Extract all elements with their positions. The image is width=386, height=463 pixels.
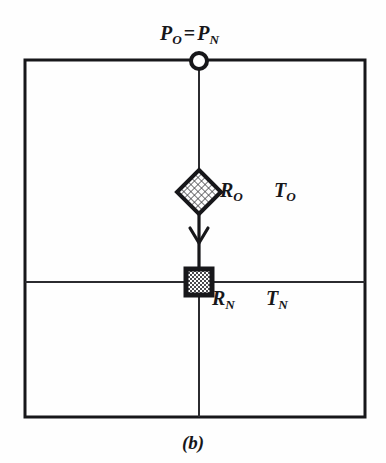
label-r-n-symbol: R — [212, 287, 225, 309]
label-r-n: RN — [212, 288, 235, 308]
label-t-n-symbol: T — [266, 287, 278, 309]
label-t-o-symbol: T — [274, 179, 286, 201]
label-r-n-subscript: N — [225, 297, 235, 312]
label-r-o-subscript: O — [233, 189, 243, 204]
label-t-n-subscript: N — [278, 297, 288, 312]
circle-node-p — [191, 53, 207, 69]
equals-operator: = — [182, 22, 197, 44]
label-t-o-subscript: O — [286, 189, 296, 204]
label-r-o: RO — [220, 180, 243, 200]
label-p-equals: PO=PN — [160, 23, 219, 43]
diagram-canvas — [0, 0, 386, 463]
label-t-n: TN — [266, 288, 288, 308]
label-t-o: TO — [274, 180, 296, 200]
figure-caption: (b) — [0, 432, 386, 454]
label-p-n: PN — [197, 22, 219, 44]
diamond-node-ro — [177, 170, 221, 214]
figure-panel-b: PO=PN RO TO RN TN (b) — [0, 0, 386, 463]
square-node-rn — [186, 269, 212, 295]
label-r-o-symbol: R — [220, 179, 233, 201]
label-p-o: PO — [160, 22, 182, 44]
